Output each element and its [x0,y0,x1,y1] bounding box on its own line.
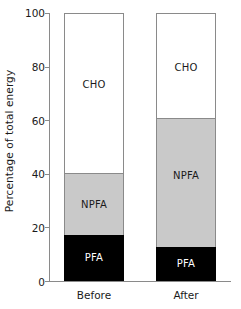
bar-before[interactable]: CHO NPFA PFA [64,13,124,281]
bar-before-segment-pfa-label: PFA [85,253,103,263]
bar-after-segment-pfa[interactable]: PFA [156,247,216,281]
bar-after-segment-cho-label: CHO [175,63,198,73]
x-axis-label-before: Before [64,290,124,301]
stacked-bar-chart: Percentage of total energy 100 80 60 40 … [0,0,241,309]
bar-before-segment-npfa-label: NPFA [81,200,107,210]
bar-before-segment-pfa[interactable]: PFA [64,235,124,281]
plot-area: CHO NPFA PFA CHO NPFA PFA [0,0,241,309]
bar-after-segment-pfa-label: PFA [177,259,195,269]
bar-after-segment-cho[interactable]: CHO [156,13,216,119]
bar-after-segment-npfa[interactable]: NPFA [156,118,216,248]
bar-before-segment-npfa[interactable]: NPFA [64,173,124,236]
x-axis-label-after: After [156,290,216,301]
bar-before-segment-cho[interactable]: CHO [64,13,124,174]
bar-before-segment-cho-label: CHO [83,80,106,90]
bar-after[interactable]: CHO NPFA PFA [156,13,216,281]
bar-after-segment-npfa-label: NPFA [173,171,199,181]
